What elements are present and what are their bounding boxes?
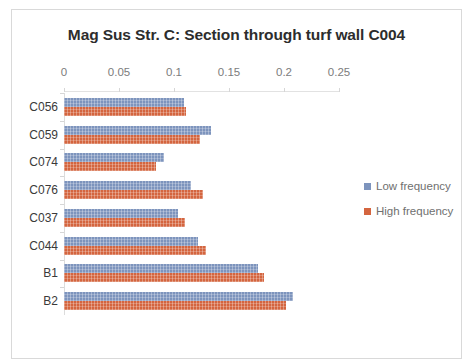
bar-high-frequency[interactable] — [64, 107, 186, 116]
bar-high-frequency[interactable] — [64, 135, 200, 144]
legend-label: High frequency — [376, 205, 453, 217]
plot-area — [64, 93, 339, 315]
y-axis-tick-mark — [60, 93, 64, 94]
y-axis-tick-mark — [60, 176, 64, 177]
y-axis-category-label: B2 — [43, 294, 58, 308]
y-axis-category-label: C074 — [29, 155, 58, 169]
legend-label: Low frequency — [376, 180, 451, 192]
x-axis-tick-mark — [284, 88, 285, 92]
bar-high-frequency[interactable] — [64, 301, 286, 310]
x-axis-tick-label: 0.2 — [276, 66, 292, 78]
y-axis-tick-mark — [60, 121, 64, 122]
chart-frame: Mag Sus Str. C: Section through turf wal… — [11, 9, 462, 359]
y-axis-category-label: C076 — [29, 183, 58, 197]
y-axis-tick-mark — [60, 260, 64, 261]
bar-high-frequency[interactable] — [64, 273, 264, 282]
legend-item[interactable]: Low frequency — [364, 180, 453, 192]
x-axis-tick-label: 0.1 — [166, 66, 182, 78]
x-axis-tick-label: 0.05 — [108, 66, 130, 78]
bar-low-frequency[interactable] — [64, 292, 293, 301]
x-axis-tick-mark — [64, 88, 65, 92]
x-axis-tick-mark — [119, 88, 120, 92]
bar-high-frequency[interactable] — [64, 218, 185, 227]
bar-group — [64, 181, 339, 199]
bar-group — [64, 153, 339, 171]
bar-low-frequency[interactable] — [64, 98, 184, 107]
bar-group — [64, 126, 339, 144]
x-axis-tick-labels: 00.050.10.150.20.25 — [64, 66, 339, 82]
bar-low-frequency[interactable] — [64, 181, 191, 190]
x-axis-tick-label: 0.25 — [328, 66, 350, 78]
y-axis-category-labels: C056C059C074C076C037C044B1B2 — [12, 93, 61, 315]
bar-group — [64, 264, 339, 282]
bar-group — [64, 98, 339, 116]
bar-group — [64, 292, 339, 310]
x-axis-tick-label: 0.15 — [218, 66, 240, 78]
bar-high-frequency[interactable] — [64, 190, 203, 199]
bar-low-frequency[interactable] — [64, 264, 258, 273]
bar-low-frequency[interactable] — [64, 126, 211, 135]
bar-group — [64, 237, 339, 255]
bar-low-frequency[interactable] — [64, 237, 198, 246]
y-axis-category-label: C037 — [29, 211, 58, 225]
bar-high-frequency[interactable] — [64, 246, 206, 255]
y-axis-category-label: C056 — [29, 100, 58, 114]
y-axis-category-label: C059 — [29, 128, 58, 142]
bar-low-frequency[interactable] — [64, 153, 164, 162]
y-axis-tick-mark — [60, 204, 64, 205]
y-axis-category-label: B1 — [43, 266, 58, 280]
chart-title: Mag Sus Str. C: Section through turf wal… — [12, 26, 461, 44]
legend-swatch-icon — [364, 183, 371, 190]
legend-swatch-icon — [364, 208, 371, 215]
x-axis-tick-label: 0 — [61, 66, 67, 78]
legend-item[interactable]: High frequency — [364, 205, 453, 217]
y-axis-tick-mark — [60, 149, 64, 150]
x-axis-tick-mark — [229, 88, 230, 92]
bar-group — [64, 209, 339, 227]
chart-legend: Low frequencyHigh frequency — [364, 180, 453, 230]
y-axis-category-label: C044 — [29, 239, 58, 253]
x-axis-line — [64, 91, 340, 92]
bar-low-frequency[interactable] — [64, 209, 178, 218]
y-axis-tick-mark — [60, 287, 64, 288]
x-axis-tick-mark — [174, 88, 175, 92]
bar-high-frequency[interactable] — [64, 162, 156, 171]
y-axis-tick-mark — [60, 232, 64, 233]
x-axis-tick-mark — [339, 88, 340, 92]
